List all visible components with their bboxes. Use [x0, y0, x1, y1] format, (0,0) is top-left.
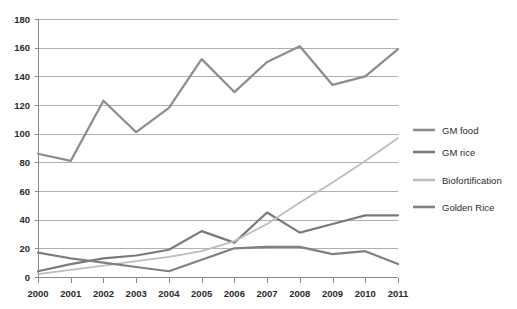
- y-tick-label: 60: [19, 186, 30, 197]
- y-tick-label: 140: [14, 71, 30, 82]
- legend-label: Golden Rice: [442, 202, 494, 213]
- line-chart: 020406080100120140160180 200020012002200…: [0, 0, 517, 309]
- x-tick-label: 2008: [289, 288, 310, 299]
- y-tick-label: 100: [14, 128, 30, 139]
- x-tick-label: 2006: [224, 288, 245, 299]
- y-tick-label: 120: [14, 100, 30, 111]
- x-tick-label: 2004: [158, 288, 180, 299]
- y-tick-label: 0: [25, 272, 30, 283]
- x-tick-label: 2010: [355, 288, 376, 299]
- y-tick-label: 20: [19, 243, 30, 254]
- x-tick-label: 2005: [191, 288, 213, 299]
- x-tick-label: 2001: [60, 288, 82, 299]
- y-tick-label: 160: [14, 42, 30, 53]
- y-tick-label: 40: [19, 214, 30, 225]
- x-tick-label: 2000: [27, 288, 48, 299]
- x-tick-label: 2007: [257, 288, 278, 299]
- x-tick-label: 2002: [93, 288, 114, 299]
- legend-label: GM food: [442, 125, 478, 136]
- x-tick-label: 2011: [388, 288, 409, 299]
- x-tick-label: 2009: [322, 288, 343, 299]
- legend-label: Biofortification: [442, 175, 502, 186]
- y-tick-label: 80: [19, 157, 30, 168]
- chart-container: 020406080100120140160180 200020012002200…: [0, 0, 517, 309]
- legend-label: GM rice: [442, 147, 475, 158]
- x-tick-label: 2003: [126, 288, 147, 299]
- y-tick-label: 180: [14, 14, 30, 25]
